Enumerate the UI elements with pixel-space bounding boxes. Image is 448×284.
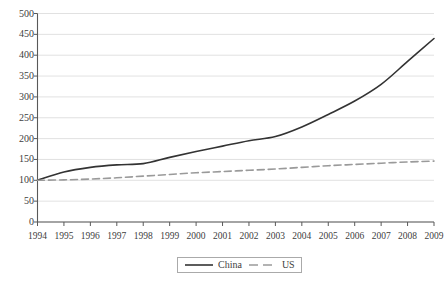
- y-axis-label: 100: [4, 175, 34, 185]
- legend-swatch-us-icon: [248, 261, 278, 269]
- series-line-us: [38, 161, 435, 180]
- chart-legend: China US: [177, 257, 302, 273]
- y-axis-label: 350: [4, 71, 34, 81]
- y-axis-label: 450: [4, 29, 34, 39]
- series-line-china: [38, 39, 435, 181]
- y-axis-label: 200: [4, 134, 34, 144]
- y-axis-label: 50: [4, 196, 34, 206]
- y-axis-label: 250: [4, 113, 34, 123]
- legend-item-us: US: [248, 260, 295, 270]
- legend-label-china: China: [218, 260, 242, 270]
- legend-item-china: China: [184, 260, 242, 270]
- legend-swatch-china-icon: [184, 261, 214, 269]
- y-axis-label: 400: [4, 50, 34, 60]
- y-axis-label: 150: [4, 154, 34, 164]
- y-axis-label: 300: [4, 92, 34, 102]
- y-axis-tick-labels: 050100150200250300350400450500: [0, 0, 34, 284]
- x-axis-label: 2009: [419, 231, 448, 241]
- legend-label-us: US: [282, 260, 295, 270]
- y-axis-label: 500: [4, 9, 34, 19]
- y-axis-label: 0: [4, 217, 34, 227]
